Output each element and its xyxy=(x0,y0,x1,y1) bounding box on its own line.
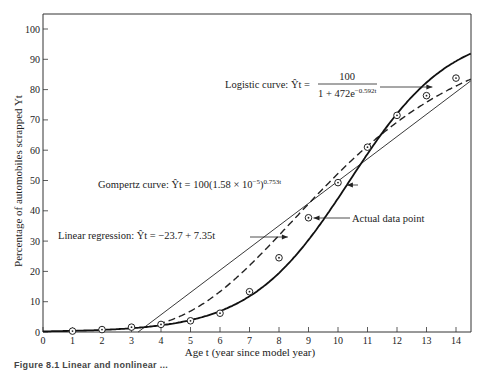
linear-regression-line xyxy=(138,81,471,332)
x-tick-label: 3 xyxy=(129,335,134,346)
actual-point-label: Actual data point xyxy=(352,213,424,224)
y-tick-label: 40 xyxy=(30,205,40,216)
curves xyxy=(43,54,471,332)
linear-label: Linear regression: Ŷt = −23.7 + 7.35t xyxy=(58,230,215,241)
data-point-dot xyxy=(219,312,221,314)
data-point-dot xyxy=(455,77,457,79)
data-point-dot xyxy=(308,217,310,219)
y-tick-label: 80 xyxy=(30,84,40,95)
x-tick-label: 1 xyxy=(70,335,75,346)
y-tick-label: 70 xyxy=(30,114,40,125)
axes-frame xyxy=(43,14,471,332)
x-tick-label: 11 xyxy=(363,335,373,346)
y-tick-label: 100 xyxy=(25,24,40,35)
y-tick-label: 90 xyxy=(30,54,40,65)
x-tick-label: 9 xyxy=(306,335,311,346)
logistic-denominator: 1 + 472e−0.592t xyxy=(318,87,377,99)
actual-data-points xyxy=(69,75,459,335)
y-tick-label: 60 xyxy=(30,145,40,156)
x-tick-label: 14 xyxy=(451,335,461,346)
y-tick-label: 10 xyxy=(30,296,40,307)
gompertz-label: Gompertz curve: Ŷt = 100(1.58 × 10−5)0.7… xyxy=(98,178,281,191)
data-point-dot xyxy=(278,257,280,259)
data-point-dot xyxy=(249,291,251,293)
x-tick-label: 5 xyxy=(188,335,193,346)
x-tick-label: 13 xyxy=(422,335,432,346)
x-tick-label: 10 xyxy=(333,335,343,346)
data-point-dot xyxy=(131,326,133,328)
x-tick-label: 7 xyxy=(247,335,252,346)
y-tick-label: 20 xyxy=(30,266,40,277)
y-axis-label: Percentage of automobiles scrapped Yt xyxy=(12,95,24,267)
y-tick-label: 0 xyxy=(35,327,40,338)
plot-frame xyxy=(43,14,471,332)
x-tick-label: 12 xyxy=(392,335,402,346)
data-point-dot xyxy=(190,320,192,322)
data-point-dot xyxy=(396,114,398,116)
data-point-dot xyxy=(337,182,339,184)
figure-caption: Figure 8.1 Linear and nonlinear ... xyxy=(14,360,168,370)
y-tick-label: 30 xyxy=(30,236,40,247)
x-tick-label: 2 xyxy=(100,335,105,346)
data-point-dot xyxy=(426,95,428,97)
logistic-curve xyxy=(43,54,471,332)
x-tick-label: 0 xyxy=(41,335,46,346)
data-point-dot xyxy=(101,329,103,331)
logistic-numerator: 100 xyxy=(339,71,355,82)
data-point-dot xyxy=(160,324,162,326)
x-tick-label: 6 xyxy=(218,335,223,346)
data-point-dot xyxy=(72,330,74,332)
scrappage-chart: 0102030405060708090100 01234567891011121… xyxy=(0,0,486,374)
x-axis-label: Age t (year since model year) xyxy=(185,346,316,359)
linear-arrow-head xyxy=(282,235,288,240)
y-axis: 0102030405060708090100 xyxy=(25,24,48,338)
data-point-dot xyxy=(367,146,369,148)
x-tick-label: 4 xyxy=(159,335,164,346)
y-tick-label: 50 xyxy=(30,175,40,186)
x-tick-label: 8 xyxy=(277,335,282,346)
logistic-arrow-head xyxy=(426,85,432,90)
logistic-label: Logistic curve: Ŷt = xyxy=(225,79,310,90)
actual-point-arrow-head xyxy=(314,216,320,221)
